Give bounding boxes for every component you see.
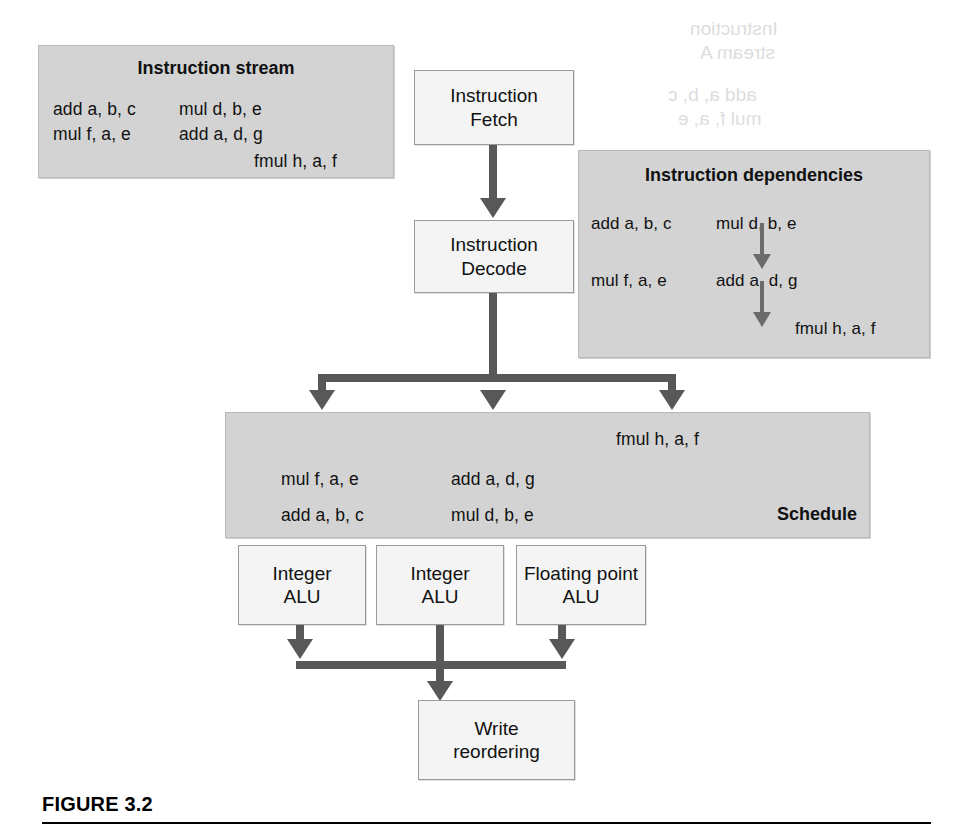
write-reordering-label: Write reordering bbox=[453, 717, 540, 763]
figure-caption: FIGURE 3.2 bbox=[42, 793, 153, 816]
instruction-stream-item: add a, b, c bbox=[53, 99, 136, 120]
instruction-fetch-label: Instruction Fetch bbox=[450, 84, 538, 130]
schedule-item: add a, b, c bbox=[281, 505, 364, 526]
schedule-label: Schedule bbox=[777, 504, 857, 525]
schedule-item: mul d, b, e bbox=[451, 505, 534, 526]
dependency-item: fmul h, a, f bbox=[795, 319, 876, 339]
dependency-arrow-head bbox=[753, 254, 771, 269]
instruction-dependencies-panel: Instruction dependencies add a, b, c mul… bbox=[578, 150, 930, 358]
write-reordering-line2: reordering bbox=[453, 741, 540, 762]
dependency-arrow-stem bbox=[760, 223, 764, 258]
bleedthrough-line-2: stream A bbox=[700, 42, 775, 64]
instruction-decode-label: Instruction Decode bbox=[450, 233, 538, 279]
instruction-fetch-line1: Instruction bbox=[450, 85, 538, 106]
fetch-to-decode-stem bbox=[489, 145, 497, 201]
execution-unit-integer-alu-2: Integer ALU bbox=[376, 545, 504, 625]
execution-unit-label: Floating point ALU bbox=[524, 562, 638, 608]
dependency-item: add a, b, c bbox=[591, 214, 672, 234]
instruction-decode-line1: Instruction bbox=[450, 234, 538, 255]
dependency-arrow-head bbox=[753, 312, 771, 327]
instruction-decode-box: Instruction Decode bbox=[414, 220, 574, 293]
figure-rule bbox=[42, 822, 931, 824]
write-reordering-box: Write reordering bbox=[418, 700, 575, 780]
dispatch-arrowhead-center bbox=[480, 390, 506, 410]
execution-unit-line1: Integer bbox=[410, 563, 469, 584]
execution-unit-line1: Floating point bbox=[524, 563, 638, 584]
alu1-output-arrowhead bbox=[287, 639, 313, 659]
execution-unit-label: Integer ALU bbox=[272, 562, 331, 608]
schedule-dispatch-bus bbox=[318, 374, 676, 382]
instruction-stream-title: Instruction stream bbox=[39, 58, 393, 79]
instruction-stream-panel: Instruction stream add a, b, c mul f, a,… bbox=[38, 45, 394, 178]
fetch-to-decode-arrowhead bbox=[480, 198, 506, 218]
dispatch-arrowhead-left bbox=[309, 390, 335, 410]
execution-unit-line2: ALU bbox=[422, 586, 459, 607]
dependency-item: mul f, a, e bbox=[591, 271, 667, 291]
instruction-fetch-box: Instruction Fetch bbox=[414, 70, 574, 145]
instruction-fetch-line2: Fetch bbox=[470, 109, 518, 130]
execution-unit-floating-point-alu: Floating point ALU bbox=[516, 545, 646, 625]
figure-page: Instruction stream A add a, b, c mul f, … bbox=[0, 0, 973, 835]
execution-unit-line2: ALU bbox=[563, 586, 600, 607]
writeback-merge-bus bbox=[296, 661, 566, 669]
dependency-item: add a, d, g bbox=[716, 271, 797, 291]
dependency-item: mul d, b, e bbox=[716, 214, 796, 234]
instruction-stream-item: mul f, a, e bbox=[53, 124, 131, 145]
schedule-panel: fmul h, a, f mul f, a, e add a, b, c add… bbox=[225, 412, 870, 538]
execution-unit-line1: Integer bbox=[272, 563, 331, 584]
schedule-item: fmul h, a, f bbox=[616, 429, 699, 450]
instruction-dependencies-title: Instruction dependencies bbox=[579, 165, 929, 186]
dispatch-arrowhead-right bbox=[659, 390, 685, 410]
dependency-arrow-stem bbox=[760, 281, 764, 316]
bleedthrough-line-3: add a, b, c bbox=[668, 84, 757, 106]
instruction-decode-line2: Decode bbox=[461, 258, 527, 279]
writeback-arrowhead bbox=[427, 681, 453, 701]
decode-to-schedule-stem bbox=[489, 293, 497, 381]
schedule-item: mul f, a, e bbox=[281, 469, 359, 490]
alu3-output-arrowhead bbox=[549, 639, 575, 659]
execution-unit-integer-alu-1: Integer ALU bbox=[238, 545, 366, 625]
execution-unit-label: Integer ALU bbox=[410, 562, 469, 608]
instruction-stream-item: mul d, b, e bbox=[179, 99, 262, 120]
instruction-stream-item: fmul h, a, f bbox=[254, 151, 337, 172]
execution-unit-line2: ALU bbox=[284, 586, 321, 607]
schedule-item: add a, d, g bbox=[451, 469, 535, 490]
bleedthrough-line-4: mul f, a, e bbox=[678, 108, 761, 130]
write-reordering-line1: Write bbox=[475, 718, 519, 739]
bleedthrough-line-1: Instruction bbox=[690, 18, 778, 40]
instruction-stream-item: add a, d, g bbox=[179, 124, 263, 145]
